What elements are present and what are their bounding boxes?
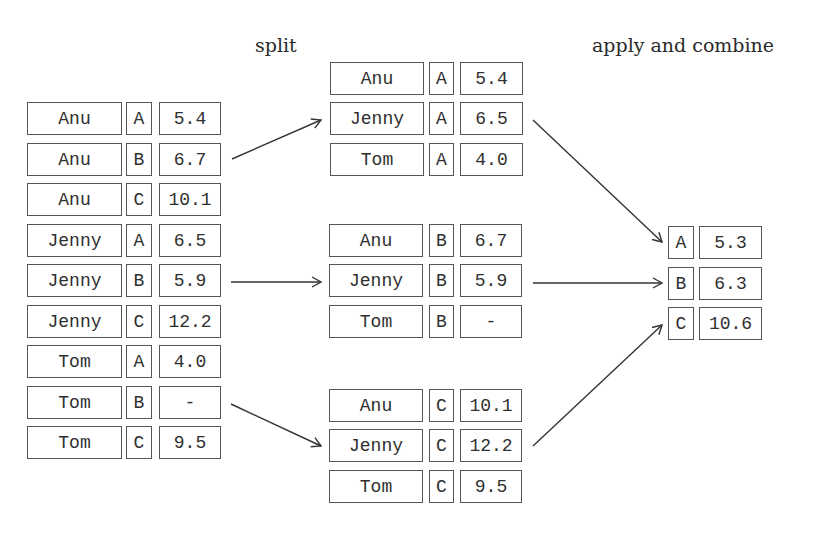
- split-arrow-c-icon: [231, 404, 321, 446]
- flow-arrows: [0, 0, 821, 534]
- combine-arrow-a-icon: [533, 120, 662, 242]
- split-arrow-a-icon: [232, 120, 321, 159]
- combine-arrow-c-icon: [533, 325, 662, 446]
